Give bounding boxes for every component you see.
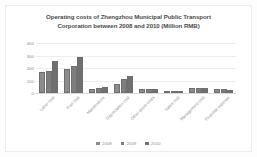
bar[interactable] (64, 69, 70, 93)
y-axis-tick-label: 400 (18, 41, 34, 46)
chart-title-line-2: Corporation between 2008 and 2010 (Milli… (18, 21, 239, 30)
bar[interactable] (102, 87, 108, 93)
bar[interactable] (52, 61, 58, 93)
bar[interactable] (196, 88, 202, 93)
bar[interactable] (189, 88, 195, 93)
bar[interactable] (164, 91, 170, 93)
bar[interactable] (96, 88, 102, 93)
legend-label: 2008 (102, 141, 112, 146)
chart-title: Operating costs of Zhengzhou Municipal P… (18, 12, 239, 30)
y-axis-tick-label: 100 (18, 78, 34, 83)
bar[interactable] (127, 76, 133, 93)
bar-group (86, 43, 111, 93)
bar-group (61, 43, 86, 93)
legend-label: 2010 (151, 141, 161, 146)
x-axis-line (36, 93, 236, 94)
legend-swatch-icon (96, 142, 100, 146)
chart-figure: Operating costs of Zhengzhou Municipal P… (0, 0, 257, 157)
bar[interactable] (39, 72, 45, 93)
bar-group (111, 43, 136, 93)
bar-group (36, 43, 61, 93)
y-axis-tick-label: 300 (18, 53, 34, 58)
bar-group (211, 43, 236, 93)
bar[interactable] (121, 79, 127, 93)
bar[interactable] (139, 89, 145, 93)
legend-swatch-icon (145, 142, 149, 146)
legend-item[interactable]: 2009 (121, 141, 136, 146)
legend-label: 2009 (126, 141, 136, 146)
bar-group (186, 43, 211, 93)
y-axis-tick-label: 200 (18, 66, 34, 71)
bar[interactable] (46, 71, 52, 94)
y-axis: 0100200300400 (16, 43, 34, 95)
bar[interactable] (71, 66, 77, 93)
legend-item[interactable]: 2010 (145, 141, 160, 146)
bar-group (136, 43, 161, 93)
y-axis-tick-label: 0 (18, 91, 34, 96)
bar[interactable] (171, 91, 177, 93)
plot-area: Labor costFuel costMaintenanceDepreciati… (36, 43, 236, 93)
chart-title-line-1: Operating costs of Zhengzhou Municipal P… (18, 12, 239, 21)
legend-item[interactable]: 2008 (96, 141, 111, 146)
bar[interactable] (77, 57, 83, 93)
bar[interactable] (202, 88, 208, 93)
bar[interactable] (227, 90, 233, 94)
bar[interactable] (114, 84, 120, 93)
bar[interactable] (214, 89, 220, 93)
bar[interactable] (152, 89, 158, 93)
chart-legend: 200820092010 (0, 141, 257, 146)
bar[interactable] (89, 89, 95, 93)
bar[interactable] (221, 89, 227, 93)
bar[interactable] (177, 91, 183, 93)
bar[interactable] (146, 89, 152, 93)
legend-swatch-icon (121, 142, 125, 146)
bar-group (161, 43, 186, 93)
